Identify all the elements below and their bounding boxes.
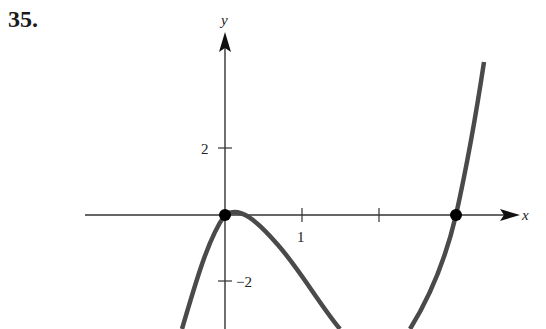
function-curve bbox=[182, 62, 484, 329]
x-axis-label: x bbox=[521, 207, 529, 223]
y-tick-label-neg2: −2 bbox=[236, 274, 252, 290]
graph: x y 1 2 −2 bbox=[0, 0, 546, 329]
point-origin bbox=[219, 209, 231, 221]
x-tick-label-1: 1 bbox=[297, 229, 305, 245]
point-root-3 bbox=[450, 209, 462, 221]
y-axis-label: y bbox=[219, 12, 228, 28]
y-tick-label-2: 2 bbox=[201, 141, 209, 157]
